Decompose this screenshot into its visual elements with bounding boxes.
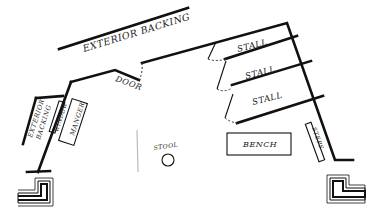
stool: STOOL [153,141,178,166]
floor-plan-diagram: EXTERIOR BACKING DOOR STALL STALL STALL [0,0,380,220]
stool-label: STOOL [153,141,178,151]
exterior-backing-top-label: EXTERIOR BACKING [80,11,191,54]
stall-2-label: STALL [244,64,276,81]
faint-divider [137,130,138,172]
corner-post-left [18,178,53,206]
exterior-backing-top: EXTERIOR BACKING [59,8,191,54]
bench: BENCH [227,133,291,155]
corner-post-right [327,175,365,203]
bench-label: BENCH [242,140,278,149]
stall-3-label: STALL [251,90,283,107]
manger-label: MANGER [68,101,87,138]
